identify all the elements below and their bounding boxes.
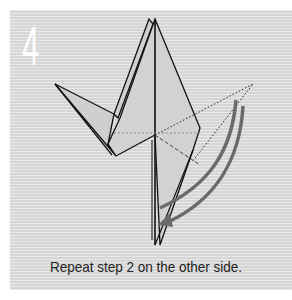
left-wing xyxy=(55,84,116,156)
origami-diagram xyxy=(0,0,292,300)
step-instruction: Repeat step 2 on the other side. xyxy=(15,258,278,275)
